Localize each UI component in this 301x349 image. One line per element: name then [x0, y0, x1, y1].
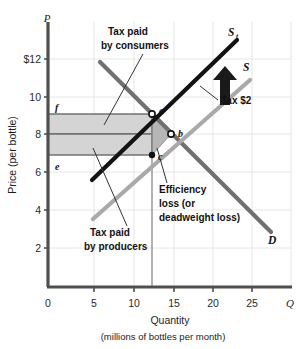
annotation-tax-producers-line2: by producers: [84, 241, 148, 252]
x-tick-label-5: 5: [91, 297, 97, 309]
chart-canvas: $12 10 8 6 4 2 0 5 10 15 20 25 P Q Quant…: [0, 0, 301, 349]
annotation-tax-consumers-line2: by consumers: [101, 40, 169, 51]
annotation-efficiency-loss-line2: loss (or: [159, 198, 195, 209]
annotation-tax-amount: Tax $2: [221, 95, 252, 106]
y-tick-label-12: $12: [23, 53, 41, 65]
point-marker-c: [149, 152, 155, 158]
annotation-efficiency-loss-line1: Efficiency: [159, 184, 207, 195]
point-label-b: b: [178, 128, 183, 139]
x-axis-symbol: Q: [286, 297, 294, 309]
point-marker-b: [168, 131, 174, 137]
y-axis-title: Price (per bottle): [6, 116, 18, 194]
x-tick-label-10: 10: [128, 297, 140, 309]
curve-label-supply: S: [243, 61, 249, 73]
y-axis-symbol: P: [43, 12, 51, 24]
x-tick-label-20: 20: [207, 297, 219, 309]
x-axis-subtitle: (millions of bottles per month): [101, 331, 226, 342]
y-tick-label-8: 8: [35, 128, 41, 140]
x-tick-label-25: 25: [246, 297, 258, 309]
point-marker-a: [149, 111, 155, 117]
x-axis-title: Quantity: [150, 314, 190, 326]
annotation-efficiency-loss-line3: deadweight loss): [159, 212, 240, 223]
point-label-a: a: [159, 105, 164, 116]
y-tick-label-10: 10: [29, 91, 41, 103]
x-tick-label-0: 0: [45, 297, 51, 309]
point-label-e: e: [55, 161, 60, 172]
annotation-tax-consumers-line1: Tax paid: [108, 26, 148, 37]
x-tick-label-15: 15: [168, 297, 180, 309]
annotation-tax-producers-line1: Tax paid: [90, 227, 130, 238]
supply-demand-tax-chart: $12 10 8 6 4 2 0 5 10 15 20 25 P Q Quant…: [0, 0, 301, 349]
region-tax-paid-by-consumers: [48, 114, 152, 134]
y-tick-label-6: 6: [35, 166, 41, 178]
y-tick-label-4: 4: [35, 204, 41, 216]
curve-label-supply-tax: S: [228, 26, 234, 38]
y-tick-label-2: 2: [35, 242, 41, 254]
curve-label-demand: D: [267, 234, 277, 246]
